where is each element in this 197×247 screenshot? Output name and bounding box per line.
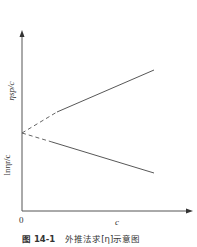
x-axis-arrow-icon xyxy=(186,209,193,214)
origin-label: 0 xyxy=(19,215,24,225)
lower-line-extrapolated xyxy=(22,133,52,142)
figure-number: 图 14-1 xyxy=(22,234,55,244)
y-label-lower: lnηr/c xyxy=(2,147,12,183)
lower-line-data xyxy=(52,142,154,173)
x-axis-label: c xyxy=(115,217,119,227)
figure-caption: 图 14-1外推法求[η]示意图 xyxy=(0,232,197,244)
y-axis-arrow-icon xyxy=(20,30,25,37)
diagram-canvas xyxy=(0,0,197,247)
upper-line-data xyxy=(57,70,154,112)
y-label-upper: ηsp/c xyxy=(6,77,16,105)
figure-title: 外推法求[η]示意图 xyxy=(65,234,140,244)
upper-line-extrapolated xyxy=(22,112,57,133)
